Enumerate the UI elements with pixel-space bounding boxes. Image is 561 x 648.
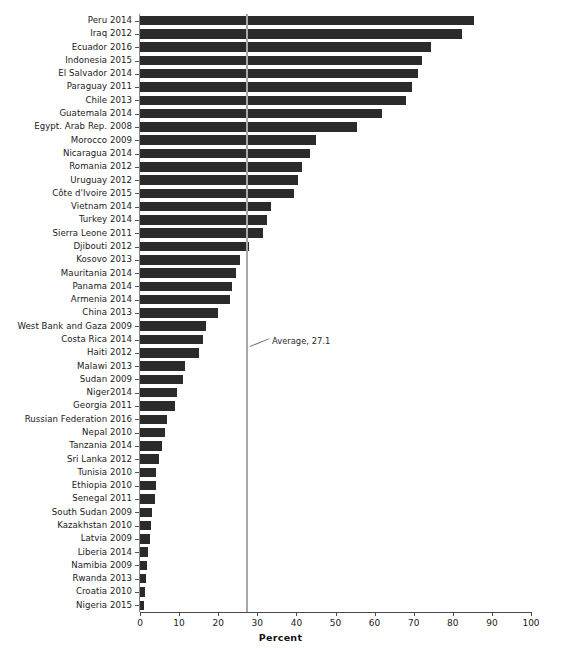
y-axis-tick <box>135 247 139 248</box>
bar <box>140 335 203 345</box>
bar <box>140 242 249 252</box>
y-axis-tick <box>135 21 139 22</box>
bar-row <box>140 360 531 373</box>
y-axis-label: Panama 2014 <box>72 281 132 291</box>
bar <box>140 69 418 79</box>
y-axis-label: South Sudan 2009 <box>52 507 132 517</box>
bar <box>140 175 298 185</box>
y-axis-tick <box>135 193 139 194</box>
bar <box>140 215 267 225</box>
y-axis-tick <box>135 592 139 593</box>
bar <box>140 228 263 238</box>
bar <box>140 388 177 398</box>
y-axis-label: China 2013 <box>82 307 132 317</box>
x-axis-tick-label: 80 <box>438 618 468 628</box>
y-axis-label: Niger2014 <box>87 387 132 397</box>
bar-row <box>140 479 531 492</box>
x-axis-tick <box>492 612 493 616</box>
x-axis-tick-label: 70 <box>399 618 429 628</box>
bar-row <box>140 266 531 279</box>
bar-row <box>140 506 531 519</box>
y-axis-tick <box>135 273 139 274</box>
y-axis-tick <box>135 526 139 527</box>
y-axis-label: Egypt. Arab Rep. 2008 <box>34 121 132 131</box>
bar-row <box>140 94 531 107</box>
y-axis-label: Indonesia 2015 <box>65 55 132 65</box>
y-axis-tick <box>135 207 139 208</box>
x-axis-tick-label: 100 <box>516 618 546 628</box>
bar <box>140 149 310 159</box>
y-axis-label: Haiti 2012 <box>87 347 132 357</box>
y-axis-label: Uruguay 2012 <box>70 175 132 185</box>
y-axis-tick <box>135 140 139 141</box>
bar-row <box>140 200 531 213</box>
y-axis-tick <box>135 167 139 168</box>
x-axis-tick <box>257 612 258 616</box>
y-axis-label: Sierra Leone 2011 <box>53 228 132 238</box>
bar-row <box>140 27 531 40</box>
average-annotation-label: Average, 27.1 <box>272 336 330 346</box>
y-axis-tick <box>135 47 139 48</box>
bar <box>140 295 230 305</box>
bar-row <box>140 453 531 466</box>
bar-row <box>140 54 531 67</box>
bar <box>140 308 218 318</box>
x-axis-tick <box>375 612 376 616</box>
bar-row <box>140 67 531 80</box>
y-axis-label: Nepal 2010 <box>82 427 132 437</box>
y-axis-tick <box>135 340 139 341</box>
y-axis-label: Rwanda 2013 <box>72 573 132 583</box>
x-axis-tick <box>218 612 219 616</box>
y-axis-label: Turkey 2014 <box>79 214 132 224</box>
y-axis-label: Nigeria 2015 <box>76 600 132 610</box>
y-axis-tick <box>135 260 139 261</box>
bar <box>140 42 431 52</box>
bar-row <box>140 107 531 120</box>
bar <box>140 162 302 172</box>
x-axis-tick-label: 50 <box>321 618 351 628</box>
bar-row <box>140 413 531 426</box>
bar <box>140 454 159 464</box>
bar-row <box>140 386 531 399</box>
bar-row <box>140 227 531 240</box>
bar-row <box>140 546 531 559</box>
bar-row <box>140 439 531 452</box>
bar-row <box>140 426 531 439</box>
bar <box>140 574 146 584</box>
y-axis-tick <box>135 472 139 473</box>
y-axis-label: Latvia 2009 <box>81 533 132 543</box>
y-axis-label: Kosovo 2013 <box>76 254 132 264</box>
bar <box>140 468 156 478</box>
y-axis-label: El Salvador 2014 <box>58 68 132 78</box>
x-axis-tick <box>140 612 141 616</box>
y-axis-label: West Bank and Gaza 2009 <box>17 321 132 331</box>
y-axis-tick <box>135 61 139 62</box>
bar-row <box>140 147 531 160</box>
bar-row <box>140 599 531 612</box>
y-axis-tick <box>135 100 139 101</box>
bar-row <box>140 134 531 147</box>
x-axis-tick <box>336 612 337 616</box>
bar <box>140 82 412 92</box>
y-axis-tick <box>135 605 139 606</box>
bar-row <box>140 80 531 93</box>
bar-chart: Average, 27.1 0102030405060708090100 Per… <box>0 0 561 648</box>
y-axis-tick <box>135 74 139 75</box>
y-axis-tick <box>135 512 139 513</box>
bar <box>140 401 175 411</box>
y-axis-tick <box>135 406 139 407</box>
y-axis-tick <box>135 379 139 380</box>
bar-row <box>140 492 531 505</box>
y-axis-tick <box>135 579 139 580</box>
bar <box>140 587 145 597</box>
bar <box>140 282 232 292</box>
x-axis-tick-label: 60 <box>360 618 390 628</box>
y-axis-tick <box>135 419 139 420</box>
bar <box>140 268 236 278</box>
y-axis-label: Côte d'Ivoire 2015 <box>52 188 132 198</box>
bar-row <box>140 559 531 572</box>
x-axis-tick <box>296 612 297 616</box>
y-axis-tick <box>135 114 139 115</box>
bar <box>140 521 151 531</box>
y-axis-tick <box>135 486 139 487</box>
